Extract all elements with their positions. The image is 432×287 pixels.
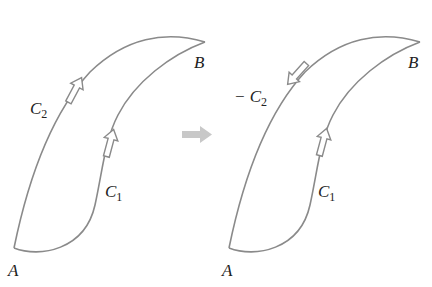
- label-c1-sub: 1: [329, 190, 335, 204]
- label-point-b: B: [194, 54, 204, 71]
- label-point-b: B: [408, 54, 418, 71]
- label-c1: C1: [105, 183, 122, 203]
- diagram-canvas: [0, 0, 432, 287]
- left-panel: [14, 37, 205, 252]
- label-c2-name: C: [30, 99, 41, 118]
- label-neg-c2: − C2: [234, 88, 267, 108]
- right-arrow-icon: [182, 126, 212, 143]
- label-c1-name: C: [318, 182, 329, 201]
- label-c2: C2: [30, 100, 47, 120]
- arrow-up-icon: [100, 128, 121, 159]
- right-panel: [229, 37, 420, 252]
- label-point-a: A: [8, 262, 18, 279]
- label-c1-sub: 1: [116, 190, 122, 204]
- label-point-a: A: [222, 262, 232, 279]
- label-neg-c2-sub: 2: [261, 95, 267, 109]
- label-c2-sub: 2: [41, 107, 47, 121]
- label-c1: C1: [318, 183, 335, 203]
- arrow-down-icon: [282, 59, 311, 89]
- arrow-up-icon: [313, 127, 334, 158]
- label-c1-name: C: [105, 182, 116, 201]
- label-neg-c2-name: − C: [234, 87, 261, 106]
